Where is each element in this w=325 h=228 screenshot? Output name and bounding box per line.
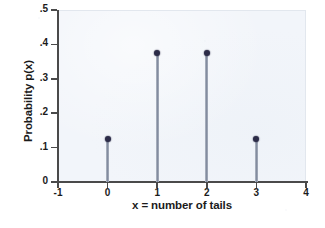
plot-area [58, 10, 306, 182]
x-axis-tick-label: 2 [195, 187, 219, 198]
y-axis-tick-label: .5 [28, 3, 48, 14]
y-axis-tick-label: 0 [28, 175, 48, 186]
x-axis-line [57, 181, 308, 183]
x-axis-tick-label: 3 [244, 187, 268, 198]
x-axis-tick-label: 4 [294, 187, 318, 198]
probability-distribution-chart: Probability p(x) 0.1.2.3.4.5 -101234 x =… [0, 0, 325, 228]
y-axis-tick-label: .1 [28, 141, 48, 152]
y-axis-tick-label: .3 [28, 72, 48, 83]
y-axis-tick [51, 78, 57, 80]
y-axis-tick-label: .4 [28, 37, 48, 48]
x-axis-tick-label: 1 [145, 187, 169, 198]
y-axis-tick-label: .2 [28, 106, 48, 117]
x-axis-tick-label: 0 [96, 187, 120, 198]
y-axis-line [57, 10, 59, 183]
data-stem [205, 53, 208, 182]
data-point-marker [204, 50, 210, 56]
y-axis-tick [51, 9, 57, 11]
data-stem [255, 139, 258, 182]
x-axis-title: x = number of tails [58, 199, 306, 211]
y-axis-tick [51, 147, 57, 149]
y-axis-tick [51, 44, 57, 46]
data-stem [106, 139, 109, 182]
y-axis-tick [51, 112, 57, 114]
data-point-marker [105, 136, 111, 142]
y-axis-tick [51, 181, 57, 183]
x-axis-tick-label: -1 [46, 187, 70, 198]
data-stem [156, 53, 159, 182]
